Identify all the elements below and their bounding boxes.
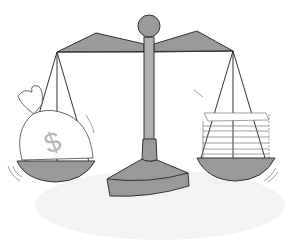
paper-stack [202, 113, 269, 158]
scale-illustration: Balance scale weighing a money bag again… [0, 0, 288, 249]
right-pan-chains [201, 51, 265, 158]
pillar-collar [142, 139, 157, 162]
scale-top-knob [138, 15, 160, 37]
money-bag: $ [18, 86, 93, 160]
scale-drawing: $ [0, 0, 288, 249]
